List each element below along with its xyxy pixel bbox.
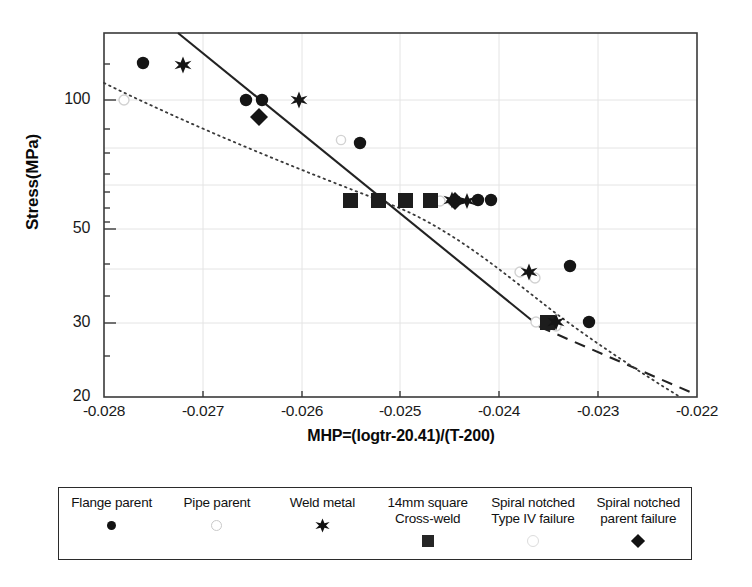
circle-filled-icon bbox=[107, 518, 116, 534]
square-filled-icon bbox=[422, 533, 434, 549]
scatter-plot-svg bbox=[0, 0, 752, 460]
circle-open-icon bbox=[211, 518, 222, 534]
diamond-icon bbox=[633, 533, 643, 549]
legend-item-type-iv-failure: Spiral notched Type IV failure bbox=[480, 488, 585, 549]
x-tick-7: -0.022 bbox=[657, 402, 737, 420]
fit-line-solid bbox=[178, 33, 540, 327]
x-tick-6: -0.023 bbox=[558, 402, 638, 420]
marker-circle-filled bbox=[137, 57, 595, 328]
legend-label-pipe-parent: Pipe parent bbox=[184, 495, 251, 511]
x-axis-ticks bbox=[203, 391, 598, 397]
legend-item-flange-parent: Flange parent bbox=[59, 488, 164, 534]
x-tick-4: -0.025 bbox=[360, 402, 440, 420]
legend-item-parent-failure: Spiral notched parent failure bbox=[586, 488, 691, 549]
x-axis-label: MHP=(logtr-20.41)/(T-200) bbox=[104, 427, 698, 445]
legend-label-cross-weld: 14mm square Cross-weld bbox=[387, 495, 467, 526]
x-tick-1: -0.028 bbox=[64, 402, 144, 420]
legend-label-type-iv-failure: Spiral notched Type IV failure bbox=[491, 495, 575, 526]
x-tick-3: -0.026 bbox=[262, 402, 342, 420]
legend-label-weld-metal: Weld metal bbox=[290, 495, 355, 511]
legend-row: Flange parent Pipe parent Weld metal 14m… bbox=[59, 488, 691, 559]
x-tick-5: -0.024 bbox=[459, 402, 539, 420]
y-tick-50: 50 bbox=[30, 219, 90, 237]
y-axis-label: Stress(MPa) bbox=[23, 87, 43, 277]
fit-line-dashed bbox=[540, 327, 697, 395]
legend-item-cross-weld: 14mm square Cross-weld bbox=[375, 488, 480, 549]
star-icon bbox=[315, 518, 330, 534]
legend-item-weld-metal: Weld metal bbox=[270, 488, 375, 534]
legend-label-parent-failure: Spiral notched parent failure bbox=[597, 495, 681, 526]
legend-label-flange-parent: Flange parent bbox=[71, 495, 152, 511]
chart-area: Stress(MPa) MHP=(logtr-20.41)/(T-200) 10… bbox=[0, 0, 752, 460]
legend: Flange parent Pipe parent Weld metal 14m… bbox=[58, 487, 692, 560]
circle-open-faint-icon bbox=[527, 533, 539, 549]
y-axis-ticks bbox=[104, 64, 116, 356]
y-tick-100: 100 bbox=[30, 90, 90, 108]
x-tick-2: -0.027 bbox=[163, 402, 243, 420]
figure-root: Stress(MPa) MHP=(logtr-20.41)/(T-200) 10… bbox=[0, 0, 752, 587]
marker-circle-open bbox=[119, 95, 561, 331]
marker-square-filled bbox=[343, 193, 555, 330]
marker-star bbox=[175, 57, 565, 331]
y-tick-30: 30 bbox=[30, 313, 90, 331]
legend-item-pipe-parent: Pipe parent bbox=[164, 488, 269, 534]
